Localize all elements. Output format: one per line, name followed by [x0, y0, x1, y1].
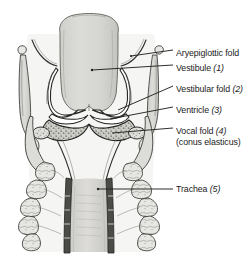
label-conus-elasticus: (conus elasticus)	[176, 137, 241, 148]
trachea-lumen	[70, 179, 108, 253]
label-ventricle: Ventricle (3)	[176, 105, 222, 116]
label-vestibular-fold-text: Vestibular fold	[176, 84, 230, 94]
label-vestibule: Vestibule (1)	[176, 63, 224, 74]
label-vestibule-text: Vestibule	[176, 63, 211, 73]
label-vocal-fold-number: (4)	[216, 126, 227, 136]
label-trachea: Trachea (5)	[176, 184, 220, 195]
label-trachea-number: (5)	[210, 184, 221, 194]
label-conus-elasticus-text: (conus elasticus)	[176, 137, 241, 147]
label-vocal-fold-text: Vocal fold	[176, 126, 213, 136]
label-ventricle-text: Ventricle	[176, 105, 209, 115]
anatomy-figure: Aryepiglottic fold Vestibule (1) Vestibu…	[0, 0, 250, 269]
label-vestibule-number: (1)	[213, 63, 224, 73]
label-trachea-text: Trachea	[176, 184, 207, 194]
label-aryepiglottic-fold: Aryepiglottic fold	[176, 48, 239, 59]
label-vestibular-fold: Vestibular fold (2)	[176, 84, 243, 95]
label-aryepiglottic-fold-text: Aryepiglottic fold	[176, 48, 239, 58]
label-ventricle-number: (3)	[211, 105, 222, 115]
vestibule-dome	[60, 14, 119, 112]
label-vestibular-fold-number: (2)	[232, 84, 243, 94]
label-vocal-fold: Vocal fold (4)	[176, 126, 226, 137]
